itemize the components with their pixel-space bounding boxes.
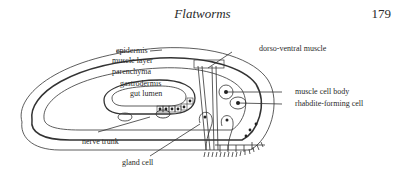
label-epidermis: epidermis xyxy=(116,47,148,55)
label-gut-lumen: gut lumen xyxy=(130,90,162,98)
label-gland-cell: gland cell xyxy=(122,159,153,167)
label-muscle-layer: muscle layer xyxy=(112,57,153,65)
label-dorso-ventral-muscle: dorso-ventral muscle xyxy=(259,45,326,53)
label-parenchyma: parenchyma xyxy=(112,68,151,76)
label-nerve-trunk: nerve trunk xyxy=(82,138,119,146)
label-rhabdite-forming-cell: rhabdite-forming cell xyxy=(295,100,363,108)
label-muscle-cell-body: muscle cell body xyxy=(295,88,349,96)
label-gastrodermis: gastrodermis xyxy=(120,80,161,88)
